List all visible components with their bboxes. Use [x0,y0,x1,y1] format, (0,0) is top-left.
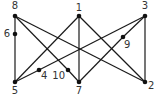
node-label-6: 6 [4,28,10,39]
node-label-5: 5 [12,85,18,96]
node-label-4: 4 [41,70,47,81]
node-8 [13,14,18,19]
node-6 [13,32,18,37]
edge-4-5 [15,70,39,82]
edge-8-10 [15,16,68,70]
node-1 [77,14,82,19]
graph-diagram: 12345678910 [0,0,154,102]
node-10 [66,68,71,73]
node-label-1: 1 [76,2,82,13]
node-7 [77,80,82,85]
node-2 [143,80,148,85]
node-label-3: 3 [142,0,148,11]
node-label-8: 8 [12,0,18,11]
edge-3-9 [123,16,145,37]
node-3 [143,14,148,19]
node-5 [13,80,18,85]
node-label-7: 7 [76,85,82,96]
node-label-2: 2 [148,80,154,91]
node-label-9: 9 [124,39,130,50]
node-label-10: 10 [52,70,65,81]
edge-10-7 [68,70,79,82]
edge-9-7 [79,37,123,82]
